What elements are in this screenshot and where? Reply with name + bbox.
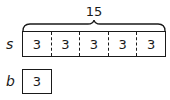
strip-s-cell: 3 bbox=[80, 32, 109, 56]
strip-s-label: s bbox=[6, 36, 13, 52]
strip-b-cell: 3 bbox=[22, 69, 52, 94]
strip-s-cell: 3 bbox=[109, 32, 138, 56]
total-label: 15 bbox=[22, 5, 166, 19]
strip-b-label: b bbox=[6, 73, 15, 89]
strip-s-cell: 3 bbox=[137, 32, 165, 56]
strip-s: 3 3 3 3 3 bbox=[22, 31, 166, 57]
strip-s-cell: 3 bbox=[52, 32, 81, 56]
strip-s-cell: 3 bbox=[23, 32, 52, 56]
